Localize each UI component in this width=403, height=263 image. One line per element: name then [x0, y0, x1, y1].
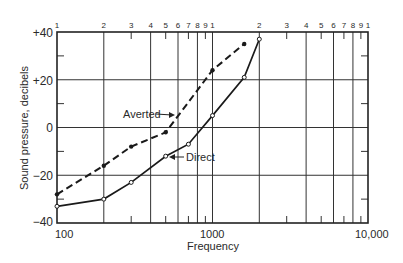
x-tick-label: 10,000 [355, 228, 389, 240]
top-cycle-label: 9 [359, 21, 364, 30]
top-cycle-label: 2 [102, 21, 107, 30]
direct-data-point [186, 142, 190, 146]
averted-data-point [102, 164, 106, 168]
top-cycle-label: 1 [210, 21, 215, 30]
data-series [55, 37, 262, 208]
direct-data-point [257, 37, 261, 41]
top-cycle-label: 8 [195, 21, 200, 30]
sound-pressure-chart: +40 +20 0 −20 −40 100 1000 10,000 Freque… [0, 0, 403, 263]
top-cycle-label: 8 [351, 21, 356, 30]
top-cycle-labels: 1234567891234567891 [55, 21, 371, 30]
y-tick-label: 0 [46, 121, 53, 135]
y-tick-label: −40 [33, 215, 54, 229]
top-cycle-label: 3 [129, 21, 134, 30]
top-cycle-label: 4 [148, 21, 153, 30]
y-tick-label: +20 [33, 74, 54, 88]
top-cycle-label: 5 [163, 21, 168, 30]
top-cycle-label: 6 [331, 21, 336, 30]
top-cycle-label: 7 [342, 21, 347, 30]
top-cycle-label: 4 [304, 21, 309, 30]
direct-data-point [164, 154, 168, 158]
top-cycle-label: 2 [257, 21, 262, 30]
direct-line [57, 39, 259, 206]
averted-data-point [55, 192, 59, 196]
averted-data-point [242, 42, 246, 46]
averted-arrowhead [169, 112, 175, 118]
averted-data-point [163, 130, 167, 134]
x-tick-label: 100 [55, 228, 73, 240]
top-cycle-label: 1 [55, 21, 60, 30]
direct-data-point [102, 197, 106, 201]
averted-annotation: Averted [123, 108, 161, 120]
x-tick-label: 1000 [200, 228, 224, 240]
averted-data-point [210, 68, 214, 72]
grid-lines [57, 32, 368, 223]
y-tick-label: +40 [33, 26, 54, 40]
direct-data-point [211, 114, 215, 118]
direct-data-point [55, 204, 59, 208]
top-cycle-label: 6 [176, 21, 181, 30]
top-cycle-label: 7 [186, 21, 191, 30]
top-cycle-label: 5 [319, 21, 324, 30]
y-axis-title: Sound pressure, decibels [18, 65, 30, 190]
direct-data-point [129, 180, 133, 184]
direct-annotation: Direct [186, 151, 215, 163]
x-axis-title: Frequency [187, 240, 239, 252]
direct-data-point [242, 75, 246, 79]
top-cycle-label: 3 [284, 21, 289, 30]
top-cycle-label: 1 [366, 21, 371, 30]
averted-data-point [129, 144, 133, 148]
y-tick-label: −20 [33, 169, 54, 183]
top-cycle-label: 9 [203, 21, 208, 30]
